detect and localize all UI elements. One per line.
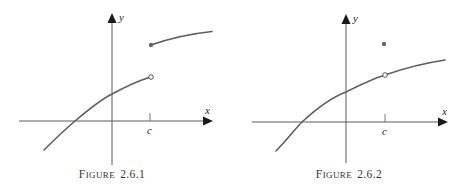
x-axis-arrow-icon [203, 117, 213, 126]
y-axis-label: y [352, 12, 358, 24]
figures-canvas: y x c FIGURE2.6.1 y x c FIGURE2.6.2 [0, 0, 466, 191]
tick-label-c: c [147, 124, 152, 136]
x-axis-label: x [441, 105, 447, 117]
y-axis-label: y [118, 11, 124, 23]
filled-point [382, 42, 386, 46]
right-branch-curve [151, 32, 212, 46]
x-axis-label: x [204, 104, 210, 116]
y-axis-arrow-icon [108, 13, 117, 23]
figure-caption: FIGURE2.6.2 [316, 168, 382, 180]
figure-2-6-1: y x c FIGURE2.6.1 [19, 11, 213, 180]
left-branch-curve [44, 78, 149, 151]
open-circle-point [149, 75, 154, 80]
figure-caption: FIGURE2.6.1 [79, 168, 145, 180]
filled-point [149, 43, 153, 47]
function-curve [276, 60, 445, 151]
x-axis-arrow-icon [438, 118, 448, 127]
open-circle-point [383, 73, 388, 78]
tick-label-c: c [382, 125, 387, 137]
y-axis-arrow-icon [342, 14, 351, 24]
figure-2-6-2: y x c FIGURE2.6.2 [252, 12, 448, 180]
